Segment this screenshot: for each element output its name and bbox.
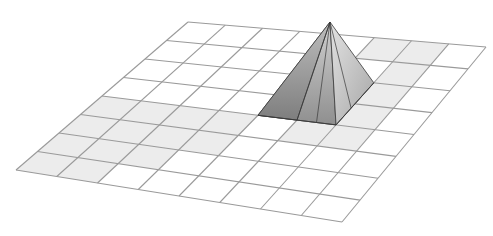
pyramid-grid-figure — [0, 0, 493, 236]
grid-plane-with-pyramid — [0, 0, 493, 236]
